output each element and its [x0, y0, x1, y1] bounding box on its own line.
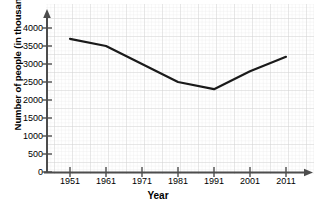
chart-canvas — [0, 0, 316, 208]
line-chart: Number of people (in thousands) 4000 350… — [0, 0, 316, 208]
major-gridlines — [46, 4, 314, 174]
